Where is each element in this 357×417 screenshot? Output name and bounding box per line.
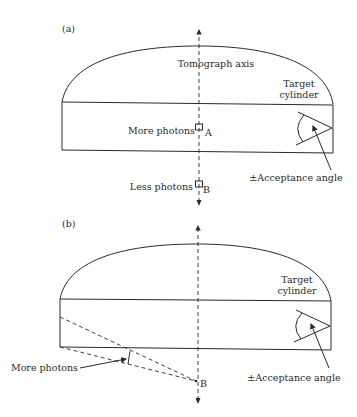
point-b-marker (195, 380, 198, 383)
target-label-line2: cylinder (279, 89, 319, 100)
panel-a-label: (a) (62, 23, 75, 34)
target-label-line1: Target (283, 78, 315, 89)
panel-b: (b) Target cylinder B More photons ±Acce… (11, 218, 341, 404)
cylinder-top-edge (60, 299, 331, 301)
less-photons-label: Less photons (130, 181, 193, 192)
target-label-line1: Target (281, 274, 313, 285)
ray-upper (60, 317, 196, 381)
axis-arrow-down-icon (196, 398, 201, 404)
panel-a: (a) Tomograph axis Target cylinder More … (62, 23, 343, 206)
tomograph-axis-label: Tomograph axis (178, 58, 255, 69)
cylinder-bottom-edge (60, 347, 331, 350)
acceptance-angle-label: ±Acceptance angle (247, 372, 341, 383)
cylinder-bottom-edge (62, 150, 333, 153)
point-b-letter: B (203, 184, 210, 195)
photon-angle-bracket (128, 351, 130, 364)
point-b-letter: B (200, 378, 207, 389)
acceptance-angle-label: ±Acceptance angle (249, 172, 343, 183)
point-a-letter: A (204, 127, 212, 138)
tomograph-diagram: (a) Tomograph axis Target cylinder More … (0, 0, 357, 417)
more-photons-label: More photons (128, 125, 195, 136)
panel-b-label: (b) (62, 218, 76, 229)
more-photons-label: More photons (11, 362, 78, 373)
target-label-line2: cylinder (277, 285, 317, 296)
axis-arrow-down-icon (197, 200, 202, 206)
more-photons-pointer (80, 359, 126, 368)
cylinder-top-edge (62, 102, 333, 105)
